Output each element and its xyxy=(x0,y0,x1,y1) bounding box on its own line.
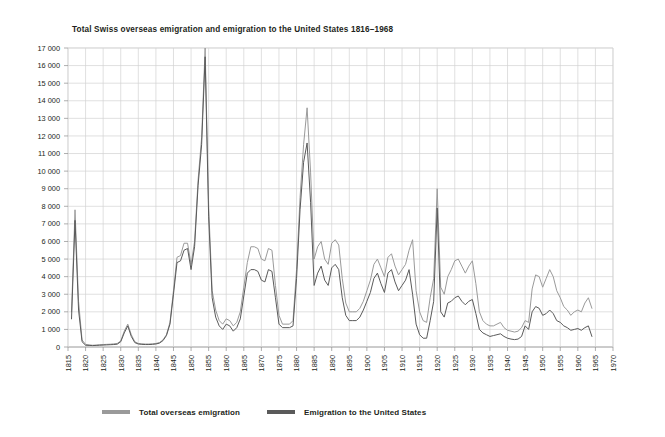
svg-text:1870: 1870 xyxy=(257,355,266,371)
svg-text:12 000: 12 000 xyxy=(37,132,60,141)
svg-text:17 000: 17 000 xyxy=(37,44,60,53)
svg-text:1930: 1930 xyxy=(468,355,477,371)
svg-text:1840: 1840 xyxy=(152,355,161,371)
svg-text:1920: 1920 xyxy=(433,355,442,371)
svg-text:7 000: 7 000 xyxy=(42,219,61,228)
svg-text:1940: 1940 xyxy=(503,355,512,371)
svg-text:5 000: 5 000 xyxy=(42,255,61,264)
legend-item-total-overseas-emigration: Total overseas emigration xyxy=(102,404,240,420)
svg-text:1865: 1865 xyxy=(240,355,249,371)
svg-text:1860: 1860 xyxy=(222,355,231,371)
x-axis-tick-labels: 1815182018251830183518401845185018551860… xyxy=(64,355,618,371)
svg-text:1855: 1855 xyxy=(204,355,213,371)
svg-text:1960: 1960 xyxy=(574,355,583,371)
legend-swatch-emigration-to-united-states xyxy=(267,410,295,414)
svg-text:3 000: 3 000 xyxy=(42,290,61,299)
svg-text:1850: 1850 xyxy=(187,355,196,371)
svg-text:1885: 1885 xyxy=(310,355,319,371)
legend-label-total-overseas-emigration: Total overseas emigration xyxy=(139,408,240,417)
svg-text:1945: 1945 xyxy=(521,355,530,371)
svg-text:1910: 1910 xyxy=(398,355,407,371)
svg-text:16 000: 16 000 xyxy=(37,61,60,70)
svg-text:1900: 1900 xyxy=(363,355,372,371)
legend-item-emigration-to-united-states: Emigration to the United States xyxy=(267,404,426,420)
svg-text:11 000: 11 000 xyxy=(38,149,60,158)
chart-legend: Total overseas emigration Emigration to … xyxy=(0,404,665,424)
svg-text:1890: 1890 xyxy=(328,355,337,371)
svg-text:1955: 1955 xyxy=(556,355,565,371)
svg-text:1970: 1970 xyxy=(609,355,618,371)
svg-text:2 000: 2 000 xyxy=(42,307,61,316)
y-axis-tick-labels: 01 0002 0003 0004 0005 0006 0007 0008 00… xyxy=(37,44,68,352)
gridlines xyxy=(68,48,613,351)
svg-text:6 000: 6 000 xyxy=(42,237,61,246)
svg-text:1875: 1875 xyxy=(275,355,284,371)
chart-figure: Total Swiss overseas emigration and emig… xyxy=(0,0,665,437)
svg-text:1935: 1935 xyxy=(486,355,495,371)
svg-text:8 000: 8 000 xyxy=(42,202,61,211)
svg-text:1950: 1950 xyxy=(538,355,547,371)
svg-text:1880: 1880 xyxy=(292,355,301,371)
svg-text:1905: 1905 xyxy=(380,355,389,371)
chart-plot-area: 01 0002 0003 0004 0005 0006 0007 0008 00… xyxy=(0,0,665,400)
svg-text:1895: 1895 xyxy=(345,355,354,371)
svg-text:1820: 1820 xyxy=(81,355,90,371)
svg-text:1815: 1815 xyxy=(64,355,73,371)
svg-text:1925: 1925 xyxy=(451,355,460,371)
svg-text:14 000: 14 000 xyxy=(37,96,60,105)
svg-text:15 000: 15 000 xyxy=(37,79,60,88)
svg-text:4 000: 4 000 xyxy=(42,272,61,281)
svg-text:1965: 1965 xyxy=(591,355,600,371)
svg-text:0: 0 xyxy=(56,343,60,352)
svg-text:13 000: 13 000 xyxy=(37,114,60,123)
svg-text:1 000: 1 000 xyxy=(42,325,61,334)
svg-text:1830: 1830 xyxy=(117,355,126,371)
svg-text:1825: 1825 xyxy=(99,355,108,371)
svg-text:1835: 1835 xyxy=(134,355,143,371)
legend-swatch-total-overseas-emigration xyxy=(102,410,130,414)
svg-text:1915: 1915 xyxy=(415,355,424,371)
svg-text:1845: 1845 xyxy=(169,355,178,371)
svg-text:10 000: 10 000 xyxy=(37,167,60,176)
legend-label-emigration-to-united-states: Emigration to the United States xyxy=(304,408,426,417)
svg-text:9 000: 9 000 xyxy=(42,184,61,193)
